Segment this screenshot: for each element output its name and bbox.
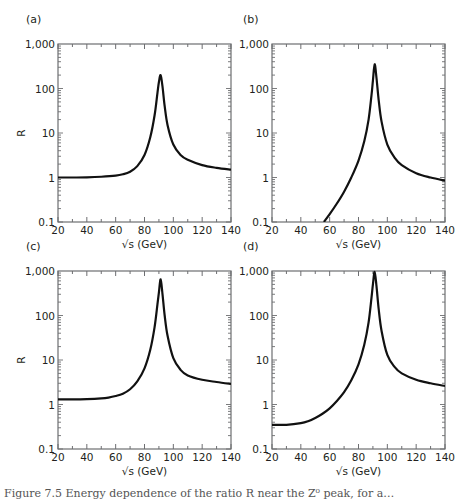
x-tick-label: 140 [221, 224, 241, 236]
x-tick-label: 100 [377, 224, 397, 236]
x-tick-label: 60 [109, 451, 122, 463]
plot-frame [58, 44, 231, 222]
x-axis-label: √s (GeV) [336, 465, 381, 477]
x-tick-label: 40 [294, 451, 307, 463]
y-tick-label: 0.1 [38, 216, 55, 228]
y-tick-label: 100 [35, 310, 55, 322]
x-tick-label: 120 [192, 451, 212, 463]
panel-label: (c) [26, 240, 41, 253]
y-tick-label: 100 [249, 83, 269, 95]
y-axis-label: R [15, 356, 27, 363]
y-tick-label: 1 [262, 399, 269, 411]
panel-a: (a)204060801001201400.11101001,000√s (Ge… [15, 13, 241, 250]
y-tick-label: 0.1 [38, 443, 55, 455]
data-curve [58, 279, 231, 399]
x-tick-label: 80 [138, 451, 151, 463]
panel-c: (c)204060801001201400.11101001,000√s (Ge… [15, 240, 241, 477]
x-tick-label: 80 [352, 224, 365, 236]
y-tick-label: 10 [256, 127, 269, 139]
panel-label: (a) [26, 13, 41, 26]
x-tick-label: 120 [192, 224, 212, 236]
x-tick-label: 40 [80, 224, 93, 236]
x-tick-label: 140 [435, 224, 455, 236]
y-tick-label: 0.1 [252, 443, 269, 455]
x-axis-label: √s (GeV) [336, 238, 381, 250]
x-tick-label: 120 [406, 451, 426, 463]
figure-caption: Figure 7.5 Energy dependence of the rati… [4, 487, 471, 499]
y-tick-label: 10 [256, 354, 269, 366]
y-tick-label: 1 [48, 172, 55, 184]
y-tick-label: 1,000 [239, 38, 269, 50]
y-tick-label: 100 [35, 83, 55, 95]
x-tick-label: 80 [138, 224, 151, 236]
x-tick-label: 140 [435, 451, 455, 463]
y-tick-label: 1 [48, 399, 55, 411]
x-tick-label: 40 [80, 451, 93, 463]
x-tick-label: 80 [352, 451, 365, 463]
y-tick-label: 10 [42, 354, 55, 366]
x-axis-label: √s (GeV) [122, 465, 167, 477]
y-tick-label: 100 [249, 310, 269, 322]
panel-b: (b)204060801001201400.11101001,000√s (Ge… [239, 13, 455, 250]
panel-d: (d)204060801001201400.11101001,000√s (Ge… [239, 240, 455, 477]
data-curve [324, 64, 445, 222]
x-tick-label: 60 [323, 224, 336, 236]
x-tick-label: 140 [221, 451, 241, 463]
y-tick-label: 1,000 [239, 265, 269, 277]
x-axis-label: √s (GeV) [122, 238, 167, 250]
y-tick-label: 0.1 [252, 216, 269, 228]
plot-frame [272, 271, 445, 449]
panel-label: (b) [243, 13, 259, 26]
data-curve [58, 75, 231, 177]
panel-label: (d) [243, 240, 259, 253]
y-tick-label: 1,000 [25, 38, 55, 50]
x-tick-label: 60 [109, 224, 122, 236]
x-tick-label: 100 [163, 224, 183, 236]
x-tick-label: 40 [294, 224, 307, 236]
x-tick-label: 100 [377, 451, 397, 463]
plot-frame [272, 44, 445, 222]
x-tick-label: 120 [406, 224, 426, 236]
y-tick-label: 1,000 [25, 265, 55, 277]
data-curve [272, 272, 445, 425]
x-tick-label: 100 [163, 451, 183, 463]
plot-frame [58, 271, 231, 449]
y-tick-label: 1 [262, 172, 269, 184]
y-tick-label: 10 [42, 127, 55, 139]
y-axis-label: R [15, 129, 27, 136]
x-tick-label: 60 [323, 451, 336, 463]
